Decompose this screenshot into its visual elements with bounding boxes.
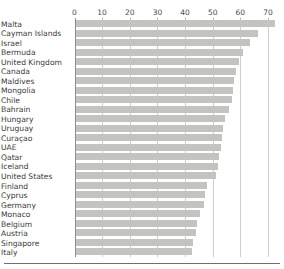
bottom-divider — [4, 263, 280, 264]
bar-row: United States — [0, 171, 284, 181]
bar — [76, 30, 258, 37]
bar-row: Maldives — [0, 76, 284, 86]
bar — [76, 87, 234, 94]
bar-row: Germany — [0, 200, 284, 210]
x-axis-tick-label: 60 — [236, 8, 246, 17]
category-label: Monaco — [1, 210, 71, 219]
bar — [76, 115, 225, 122]
bar-row: Canada — [0, 67, 284, 77]
bar-row: Monaco — [0, 209, 284, 219]
bar-row: Chile — [0, 95, 284, 105]
bar — [76, 68, 236, 75]
bar-row: United Kingdom — [0, 57, 284, 67]
bar — [76, 20, 275, 27]
category-label: Bahrain — [1, 105, 71, 114]
bar — [76, 125, 224, 132]
bar — [76, 201, 205, 208]
category-label: Curaçao — [1, 133, 71, 142]
bar-row: Qatar — [0, 152, 284, 162]
bar-row: Bahrain — [0, 105, 284, 115]
x-axis-tick-label: 30 — [153, 8, 163, 17]
bar — [76, 172, 217, 179]
bar — [76, 248, 192, 255]
bar — [76, 106, 229, 113]
category-label: Finland — [1, 181, 71, 190]
bar-row: Finland — [0, 181, 284, 191]
category-label: Singapore — [1, 238, 71, 247]
bar — [76, 39, 250, 46]
category-label: UAE — [1, 143, 71, 152]
category-label: Germany — [1, 200, 71, 209]
category-label: United States — [1, 172, 71, 181]
bar-row: Mongolia — [0, 86, 284, 96]
bar-row: Israel — [0, 38, 284, 48]
category-label: Austria — [1, 229, 71, 238]
bar — [76, 220, 198, 227]
category-label: Malta — [1, 19, 71, 28]
bar-row: Cayman Islands — [0, 29, 284, 39]
bar — [76, 191, 206, 198]
bar-row: Hungary — [0, 114, 284, 124]
bar — [76, 58, 239, 65]
category-label: Chile — [1, 95, 71, 104]
x-axis-tick-label: 50 — [208, 8, 218, 17]
bar — [76, 163, 218, 170]
bar — [76, 134, 222, 141]
bar-row: Singapore — [0, 238, 284, 248]
bar-row: Malta — [0, 19, 284, 29]
bar-row: Curaçao — [0, 133, 284, 143]
category-label: United Kingdom — [1, 57, 71, 66]
bar-row: Cyprus — [0, 190, 284, 200]
bar-rows: MaltaCayman IslandsIsraelBermudaUnited K… — [0, 19, 284, 257]
bar-row: Iceland — [0, 162, 284, 172]
bar — [76, 49, 243, 56]
category-label: Cayman Islands — [1, 29, 71, 38]
category-label: Belgium — [1, 219, 71, 228]
bar-row: Austria — [0, 228, 284, 238]
category-label: Maldives — [1, 76, 71, 85]
x-axis-tick-label: 10 — [97, 8, 107, 17]
bar-row: Bermuda — [0, 48, 284, 58]
bar — [76, 144, 221, 151]
bar-row: UAE — [0, 143, 284, 153]
bar-chart: 010203040506070 MaltaCayman IslandsIsrae… — [0, 0, 284, 269]
bar — [76, 239, 193, 246]
bar-row: Belgium — [0, 219, 284, 229]
cropped-text-fragment — [6, 0, 156, 6]
bar — [76, 182, 207, 189]
category-label: Italy — [1, 248, 71, 257]
category-label: Canada — [1, 67, 71, 76]
bar — [76, 210, 200, 217]
bar — [76, 229, 196, 236]
bar — [76, 96, 232, 103]
bar — [76, 77, 235, 84]
x-axis-tick-label: 0 — [72, 8, 77, 17]
category-label: Cyprus — [1, 191, 71, 200]
category-label: Bermuda — [1, 48, 71, 57]
x-axis-tick-label: 20 — [125, 8, 135, 17]
category-label: Israel — [1, 38, 71, 47]
category-label: Mongolia — [1, 86, 71, 95]
category-label: Iceland — [1, 162, 71, 171]
bar-row: Uruguay — [0, 124, 284, 134]
category-label: Hungary — [1, 114, 71, 123]
category-label: Qatar — [1, 152, 71, 161]
x-axis-tick-label: 40 — [180, 8, 190, 17]
bar-row: Italy — [0, 247, 284, 257]
category-label: Uruguay — [1, 124, 71, 133]
x-axis-tick-label: 70 — [263, 8, 273, 17]
bar — [76, 153, 220, 160]
